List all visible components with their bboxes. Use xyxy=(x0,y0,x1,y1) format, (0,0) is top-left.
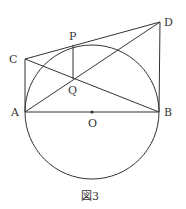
segment-CD xyxy=(25,22,160,59)
center-point-O xyxy=(90,110,93,113)
label-A: A xyxy=(10,106,20,119)
geometry-figure: C P D Q A O B 図3 xyxy=(0,0,186,209)
label-D: D xyxy=(164,16,173,29)
label-O: O xyxy=(88,117,97,130)
label-B: B xyxy=(164,106,172,119)
label-C: C xyxy=(9,53,17,66)
label-Q: Q xyxy=(68,84,77,97)
segment-BD xyxy=(159,22,160,112)
figure-caption: 図3 xyxy=(81,190,99,203)
label-P: P xyxy=(69,30,77,43)
